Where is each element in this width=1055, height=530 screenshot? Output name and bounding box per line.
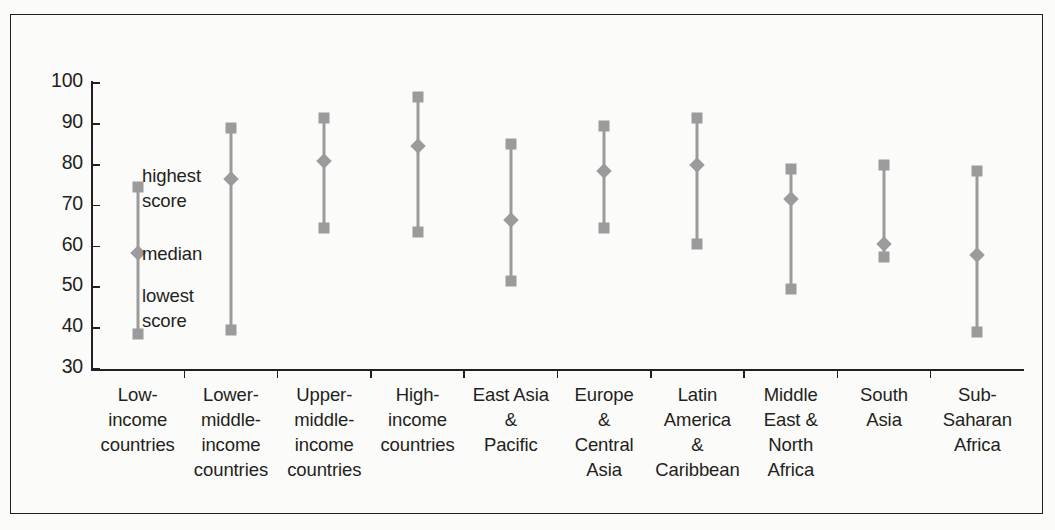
category-label-line: income [371, 407, 464, 432]
median-marker [596, 163, 612, 179]
median-marker [690, 157, 706, 173]
median-marker [223, 171, 239, 187]
category-label-line: countries [371, 432, 464, 457]
highest-score-marker [599, 120, 610, 131]
highest-score-marker [785, 163, 796, 174]
category-label-line: income [184, 432, 277, 457]
category-label-8: SouthAsia [837, 382, 930, 432]
category-label-line: Asia [837, 407, 930, 432]
median-marker [970, 247, 986, 263]
category-label-line: & [464, 407, 557, 432]
y-tick-50 [91, 286, 100, 288]
category-label-line: Africa [931, 432, 1024, 457]
annotation-median-line1: median [142, 241, 202, 266]
category-label-line: Low- [91, 382, 184, 407]
category-label-line: income [91, 407, 184, 432]
category-label-line: Asia [558, 457, 651, 482]
x-tick-1 [184, 369, 186, 378]
category-label-line: & [558, 407, 651, 432]
x-tick-5 [557, 369, 559, 378]
median-marker [783, 192, 799, 208]
lowest-score-marker [225, 325, 236, 336]
highest-score-marker [692, 112, 703, 123]
lowest-score-marker [319, 223, 330, 234]
annotation-median: median [142, 241, 202, 266]
y-tick-label-wrap-40: 40 [11, 327, 83, 328]
lowest-score-marker [972, 327, 983, 338]
x-tick-6 [650, 369, 652, 378]
category-label-3: High-incomecountries [371, 382, 464, 457]
y-tick-label-50: 50 [39, 273, 83, 296]
y-tick-label-wrap-30: 30 [11, 368, 83, 369]
x-tick-9 [930, 369, 932, 378]
category-label-line: middle- [278, 407, 371, 432]
lowest-score-marker [505, 276, 516, 287]
y-tick-label-wrap-80: 80 [11, 164, 83, 165]
median-marker [503, 212, 519, 228]
category-label-7: MiddleEast &NorthAfrica [744, 382, 837, 482]
category-label-line: Pacific [464, 432, 557, 457]
y-tick-label-60: 60 [39, 233, 83, 256]
lowest-score-marker [692, 239, 703, 250]
category-label-5: Europe&CentralAsia [558, 382, 651, 482]
category-label-2: Upper-middle-incomecountries [278, 382, 371, 482]
category-label-line: Africa [744, 457, 837, 482]
range-line [229, 128, 232, 330]
category-label-line: Europe [558, 382, 651, 407]
y-tick-label-70: 70 [39, 192, 83, 215]
category-label-4: East Asia&Pacific [464, 382, 557, 457]
category-label-line: Sub-Saharan [931, 382, 1024, 432]
y-tick-label-80: 80 [39, 151, 83, 174]
y-tick-label-wrap-50: 50 [11, 286, 83, 287]
category-label-line: North [744, 432, 837, 457]
range-line [789, 169, 792, 290]
range-line [323, 118, 326, 228]
category-label-line: Caribbean [651, 457, 744, 482]
y-tick-100 [91, 82, 100, 84]
x-tick-7 [743, 369, 745, 378]
x-tick-4 [463, 369, 465, 378]
category-label-line: middle- [184, 407, 277, 432]
annotation-lowest-score: lowest score [142, 283, 194, 333]
category-label-line: East Asia [464, 382, 557, 407]
highest-score-marker [319, 112, 330, 123]
x-tick-2 [277, 369, 279, 378]
category-label-line: countries [184, 457, 277, 482]
y-tick-label-wrap-90: 90 [11, 123, 83, 124]
median-marker [410, 139, 426, 155]
range-line [416, 97, 419, 232]
chart-page: 10090807060504030 Low-incomecountriesLow… [0, 0, 1055, 530]
category-label-line: America [651, 407, 744, 432]
y-tick-label-wrap-60: 60 [11, 246, 83, 247]
chart-frame: 10090807060504030 Low-incomecountriesLow… [10, 14, 1043, 514]
range-line [696, 118, 699, 245]
lowest-score-marker [599, 223, 610, 234]
y-tick-70 [91, 205, 100, 207]
category-label-line: countries [91, 432, 184, 457]
x-tick-8 [837, 369, 839, 378]
annotation-highest-score: highest score [142, 163, 201, 213]
y-tick-label-90: 90 [39, 110, 83, 133]
category-label-line: Lower- [184, 382, 277, 407]
annotation-lowest-line1: lowest [142, 283, 194, 308]
y-tick-label-100: 100 [39, 69, 83, 92]
category-label-line: income [278, 432, 371, 457]
y-tick-90 [91, 123, 100, 125]
plot-area: 10090807060504030 Low-incomecountriesLow… [11, 15, 1042, 513]
highest-score-marker [505, 139, 516, 150]
y-tick-label-wrap-100: 100 [11, 82, 83, 83]
y-tick-label-40: 40 [39, 314, 83, 337]
y-tick-60 [91, 246, 100, 248]
y-tick-label-wrap-70: 70 [11, 205, 83, 206]
highest-score-marker [225, 122, 236, 133]
annotation-lowest-line2: score [142, 308, 194, 333]
lowest-score-marker [879, 251, 890, 262]
category-label-1: Lower-middle-incomecountries [184, 382, 277, 482]
category-label-line: Central [558, 432, 651, 457]
category-label-9: Sub-SaharanAfrica [931, 382, 1024, 457]
y-tick-40 [91, 327, 100, 329]
y-tick-label-30: 30 [39, 355, 83, 378]
category-label-6: LatinAmerica&Caribbean [651, 382, 744, 482]
median-marker [876, 237, 892, 253]
category-label-line: South [837, 382, 930, 407]
